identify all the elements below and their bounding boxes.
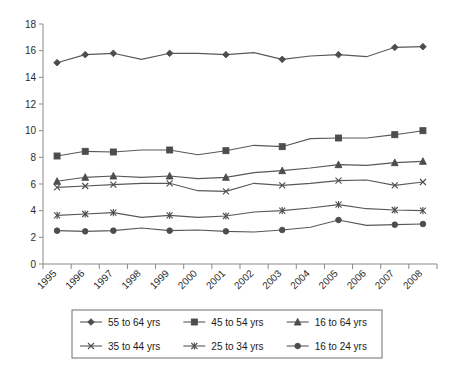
data-point-marker (279, 227, 285, 233)
data-point-marker (420, 128, 426, 134)
data-point-marker (82, 229, 88, 235)
legend-label: 45 to 54 yrs (211, 317, 263, 328)
data-point-marker (82, 148, 88, 154)
series-45-to-54-yrs (54, 128, 426, 159)
data-point-marker (167, 147, 173, 153)
y-axis-tick-label: 2 (30, 232, 36, 243)
legend-label: 55 to 64 yrs (108, 317, 160, 328)
data-point-marker (111, 228, 117, 234)
x-axis-tick-label: 2003 (260, 267, 284, 291)
x-axis-tick-label: 2002 (232, 267, 256, 291)
y-axis: 024681012141618 (25, 19, 43, 270)
x-axis-tick-label: 2006 (345, 267, 369, 291)
data-point-marker (392, 222, 398, 228)
x-axis-tick-label: 2008 (401, 267, 425, 291)
y-axis-tick-label: 18 (25, 19, 37, 30)
y-axis-tick-label: 14 (25, 72, 37, 83)
data-point-marker (295, 343, 301, 349)
data-point-marker (191, 319, 197, 325)
data-point-marker (110, 50, 117, 57)
series-16-to-24-yrs (54, 217, 425, 234)
x-axis: 1995199619971998199920002001200220032004… (35, 264, 437, 291)
y-axis-tick-label: 6 (30, 179, 36, 190)
legend-label: 16 to 64 yrs (315, 317, 367, 328)
legend-label: 16 to 24 yrs (315, 341, 367, 352)
series-25-to-34-yrs (54, 201, 426, 220)
y-axis-tick-label: 8 (30, 152, 36, 163)
data-point-marker (223, 229, 229, 235)
data-point-marker (335, 51, 342, 58)
data-point-marker (54, 153, 60, 159)
data-point-marker (223, 148, 229, 154)
x-axis-tick-label: 2000 (176, 267, 200, 291)
series-layer (54, 43, 427, 234)
x-axis-tick-label: 1995 (35, 267, 59, 291)
data-point-marker (392, 132, 398, 138)
y-axis-tick-label: 10 (25, 125, 37, 136)
data-point-marker (223, 51, 230, 58)
data-point-marker (336, 135, 342, 141)
x-axis-tick-label: 1998 (119, 267, 143, 291)
data-point-marker (279, 144, 285, 150)
line-chart: 024681012141618 199519961997199819992000… (0, 0, 449, 378)
series-55-to-64-yrs (54, 43, 426, 66)
chart-container: 024681012141618 199519961997199819992000… (0, 0, 449, 378)
data-point-marker (420, 43, 427, 50)
x-axis-tick-label: 2001 (204, 267, 228, 291)
legend-label: 35 to 44 yrs (108, 341, 160, 352)
data-point-marker (110, 149, 116, 155)
data-point-marker (167, 228, 173, 234)
y-axis-tick-label: 12 (25, 99, 37, 110)
x-axis-tick-label: 2007 (373, 267, 397, 291)
y-axis-tick-label: 16 (25, 45, 37, 56)
data-point-marker (279, 56, 286, 63)
x-axis-tick-label: 2005 (316, 267, 340, 291)
x-axis-tick-label: 2004 (288, 267, 312, 291)
x-axis-tick-label: 1996 (63, 267, 87, 291)
data-point-marker (54, 59, 61, 66)
data-point-marker (391, 44, 398, 51)
data-point-marker (166, 50, 173, 57)
legend-label: 25 to 34 yrs (211, 341, 263, 352)
y-axis-tick-label: 4 (30, 205, 36, 216)
data-point-marker (336, 217, 342, 223)
x-axis-tick-label: 1999 (148, 267, 172, 291)
data-point-marker (54, 228, 60, 234)
data-point-marker (82, 51, 89, 58)
x-axis-tick-label: 1997 (91, 267, 115, 291)
data-point-marker (420, 221, 426, 227)
y-axis-tick-label: 0 (30, 259, 36, 270)
series-35-to-44-yrs (54, 178, 426, 195)
chart-legend: 55 to 64 yrs45 to 54 yrs16 to 64 yrs35 t… (72, 310, 382, 358)
